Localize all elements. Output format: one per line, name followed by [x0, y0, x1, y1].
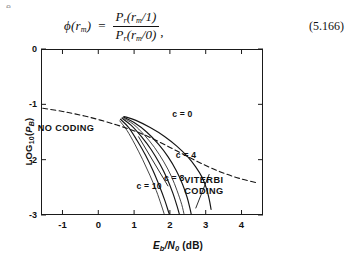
annotation-viterbi-coding-line1: VITERBI	[184, 176, 223, 187]
phi-symbol: ϕ	[64, 18, 71, 33]
y-tick-label: -3	[29, 210, 37, 220]
equation-5-166: ϕ(rm) = Pr(rm/1) Pr(rm/0) ,	[64, 10, 164, 42]
annotation-no-coding: NO CODING	[38, 123, 95, 133]
curve-c-10-shadow	[120, 121, 165, 215]
denominator-p: P	[116, 27, 124, 42]
x-tick-label: 0	[96, 219, 101, 230]
x-tick-label: 2	[167, 219, 172, 230]
equation-left-side: ϕ(rm)	[64, 18, 91, 34]
r-subscript: m	[81, 25, 87, 34]
numerator-arg-subscript: m	[136, 16, 142, 25]
y-tick-label: -2	[29, 155, 37, 165]
y-tick-label: -1	[29, 99, 37, 109]
paren-close: )	[87, 18, 92, 33]
denominator-arg-tail: /0)	[142, 27, 156, 42]
equation-block: ϕ(rm) = Pr(rm/1) Pr(rm/0) , (5.166)	[0, 8, 356, 46]
annotation-viterbi-coding-line2: CODING	[184, 186, 223, 197]
x-axis-units: (dB)	[179, 240, 203, 251]
equation-comma: ,	[160, 24, 163, 42]
x-tick-label: 1	[131, 219, 136, 230]
y-axis-label-base: 10	[28, 136, 35, 144]
x-axis-label-den-subscript: 0	[175, 244, 179, 253]
y-axis-arg: P	[23, 126, 34, 133]
x-axis-label-main-subscript: b	[160, 244, 165, 253]
y-tick-label: 0	[32, 44, 37, 54]
r-symbol: r	[75, 18, 80, 33]
curve-c-10	[120, 119, 169, 215]
x-tick-label: 3	[203, 219, 208, 230]
fraction-denominator: Pr(rm/0)	[113, 27, 160, 43]
numerator-p-subscript: r	[124, 16, 127, 25]
figure-page: e ϕ(rm) = Pr(rm/1) Pr(rm/0) , (5.166) LO…	[0, 0, 356, 273]
x-axis-label-den: /N	[165, 240, 175, 251]
annotation-c-8: c = 8	[164, 173, 184, 183]
denominator-arg-subscript: m	[136, 34, 142, 43]
plot-area: -1012340-1-2-3 NO CODINGc = 0c = 4c = 8c…	[41, 49, 263, 215]
x-axis-label: Eb/N0 (dB)	[0, 240, 356, 251]
equals-sign: =	[98, 18, 105, 34]
curve-no-coding	[43, 108, 258, 183]
fraction-numerator: Pr(rm/1)	[113, 10, 160, 26]
chart-figure: LOG10(PB) -1012340-1-2-3 NO CODINGc = 0c…	[0, 44, 356, 273]
fraction: Pr(rm/1) Pr(rm/0)	[113, 10, 160, 42]
numerator-arg-tail: /1)	[142, 9, 156, 24]
x-tick-label: -1	[58, 219, 66, 230]
annotation-c-4: c = 4	[176, 150, 196, 160]
denominator-arg: (r	[127, 27, 136, 42]
annotation-c-10: c = 10	[136, 181, 161, 191]
annotation-c-0: c = 0	[172, 109, 192, 119]
y-axis-arg-subscript: B	[28, 121, 35, 126]
annotation-viterbi-coding: VITERBICODING	[184, 176, 223, 197]
scan-artifact: e	[6, 1, 11, 8]
x-tick-label: 4	[239, 219, 244, 230]
numerator-arg: (r	[127, 9, 136, 24]
equation-number: (5.166)	[309, 19, 344, 34]
numerator-p: P	[116, 9, 124, 24]
x-axis-label-main: E	[153, 240, 160, 251]
denominator-p-subscript: r	[124, 34, 127, 43]
